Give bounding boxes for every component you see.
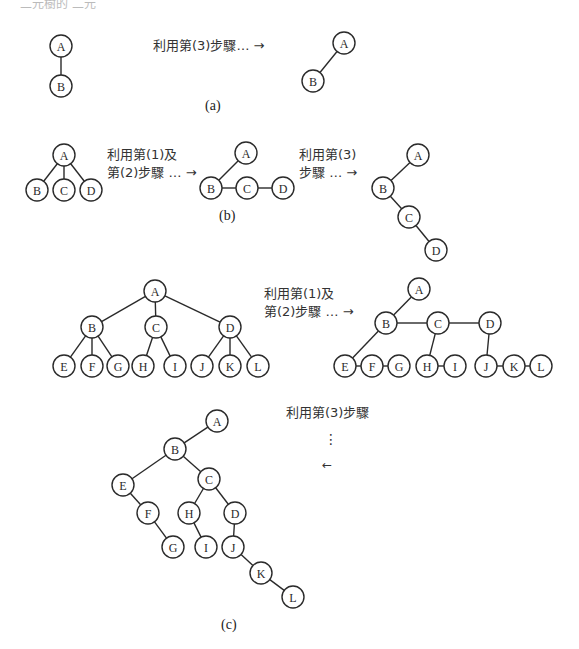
svg-text:B: B <box>33 184 41 198</box>
node-I: I <box>195 536 217 558</box>
edge-A-B <box>102 296 146 321</box>
b-tree: ABCD <box>26 144 102 201</box>
svg-text:G: G <box>169 541 178 555</box>
svg-text:J: J <box>231 541 236 555</box>
caption-c: (c) <box>221 617 237 633</box>
c-linked: ABCDEFGHIJKL <box>334 278 552 377</box>
svg-text:I: I <box>453 360 457 374</box>
node-C: C <box>398 206 420 228</box>
node-J: J <box>475 355 497 377</box>
node-L: L <box>247 355 269 377</box>
node-J: J <box>191 355 213 377</box>
node-G: G <box>107 355 129 377</box>
svg-text:B: B <box>382 317 390 331</box>
a-tree: AB <box>50 35 72 97</box>
svg-text:E: E <box>341 360 348 374</box>
node-B: B <box>26 179 48 201</box>
node-E: E <box>53 355 75 377</box>
caption-b: (b) <box>219 208 235 224</box>
b-step2-label: 利用第(3) 步驟 … → <box>299 146 357 182</box>
node-F: F <box>361 355 383 377</box>
node-E: E <box>112 474 134 496</box>
node-A: A <box>50 35 72 57</box>
edge-F-G <box>155 522 167 538</box>
b-step1-line2: 第(2)步驟 … → <box>107 164 197 182</box>
svg-text:A: A <box>415 283 424 297</box>
node-D: D <box>272 177 294 199</box>
a-binary: AB <box>302 32 355 92</box>
node-B: B <box>302 70 324 92</box>
node-K: K <box>250 562 272 584</box>
edge-C-D <box>416 226 429 242</box>
node-D: D <box>80 179 102 201</box>
svg-text:J: J <box>200 360 205 374</box>
edge-B-E <box>353 331 379 358</box>
edge-A-B <box>320 52 337 73</box>
node-G: G <box>388 355 410 377</box>
node-B: B <box>50 75 72 97</box>
c-step2-arrow: ← <box>322 456 332 474</box>
svg-text:C: C <box>60 184 68 198</box>
svg-text:B: B <box>88 321 96 335</box>
edge-B-G <box>98 336 112 357</box>
b-step2-line1: 利用第(3) <box>299 146 357 164</box>
node-I: I <box>164 355 186 377</box>
svg-text:D: D <box>87 184 96 198</box>
svg-text:E: E <box>119 479 126 493</box>
caption-a: (a) <box>205 98 221 114</box>
svg-text:C: C <box>205 473 213 487</box>
edge-J-K <box>241 554 253 565</box>
svg-text:A: A <box>213 415 222 429</box>
b-step1-line1: 利用第(1)及 <box>107 146 197 164</box>
svg-text:C: C <box>243 182 251 196</box>
c-step2-label: 利用第(3)步驟 <box>286 404 369 422</box>
node-E: E <box>334 355 356 377</box>
b-linked: ABCD <box>200 142 294 199</box>
c-binary: ABCEFHDGIJKL <box>112 410 304 608</box>
svg-text:H: H <box>139 360 148 374</box>
edge-H-I <box>194 523 201 537</box>
node-B: B <box>375 312 397 334</box>
svg-text:A: A <box>151 285 160 299</box>
node-D: D <box>425 239 447 261</box>
edge-A-B <box>184 427 208 443</box>
node-H: H <box>416 355 438 377</box>
node-F: F <box>81 355 103 377</box>
svg-text:G: G <box>114 360 123 374</box>
node-C: C <box>53 179 75 201</box>
a-step-label: 利用第(3)步驟… → <box>153 37 264 55</box>
c-step1-line1: 利用第(1)及 <box>264 285 354 303</box>
edge-B-C <box>390 196 401 209</box>
edge-B-E <box>132 455 166 478</box>
node-H: H <box>178 502 200 524</box>
node-A: A <box>235 142 257 164</box>
edge-C-H <box>146 337 152 355</box>
node-A: A <box>206 410 228 432</box>
b-step1-label: 利用第(1)及 第(2)步驟 … → <box>107 146 197 182</box>
node-D: D <box>224 502 246 524</box>
svg-text:F: F <box>89 360 96 374</box>
svg-text:K: K <box>257 567 266 581</box>
edge-C-H <box>195 488 204 503</box>
node-K: K <box>219 355 241 377</box>
svg-text:D: D <box>231 507 240 521</box>
svg-text:B: B <box>309 75 317 89</box>
svg-text:L: L <box>289 591 296 605</box>
node-B: B <box>200 177 222 199</box>
b-step2-line2: 步驟 … → <box>299 164 357 182</box>
node-K: K <box>503 355 525 377</box>
tree-diagram: ABABABCDABCDABCDABCDEFGHIJKLABCDEFGHIJKL… <box>0 0 579 649</box>
svg-text:B: B <box>379 182 387 196</box>
node-D: D <box>479 312 501 334</box>
svg-text:A: A <box>414 149 423 163</box>
svg-text:K: K <box>226 360 235 374</box>
node-J: J <box>222 536 244 558</box>
edge-A-B <box>219 161 238 180</box>
node-D: D <box>219 316 241 338</box>
node-A: A <box>407 144 429 166</box>
svg-text:L: L <box>254 360 261 374</box>
node-L: L <box>530 355 552 377</box>
edge-B-C <box>183 456 201 471</box>
svg-text:D: D <box>432 244 441 258</box>
edge-K-L <box>270 580 284 591</box>
